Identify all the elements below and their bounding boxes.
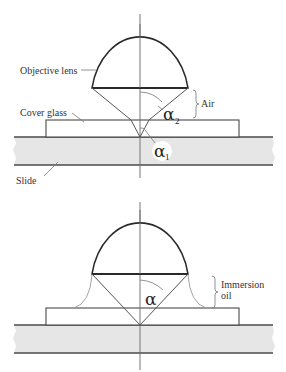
- label-slide: Slide: [16, 175, 37, 186]
- label-alpha-2-subscript: 2: [175, 116, 180, 126]
- label-alpha-1-subscript: 1: [165, 152, 170, 162]
- immersion-oil-right: [188, 275, 206, 308]
- label-objective-lens: Objective lens: [20, 65, 78, 76]
- microscope-objective-diagram: Objective lens Cover glass Slide Air α 2…: [0, 0, 286, 372]
- angle-arc-alpha2: [140, 92, 162, 102]
- label-cover-glass: Cover glass: [20, 107, 67, 118]
- label-air: Air: [201, 98, 215, 109]
- label-immersion: Immersion: [221, 279, 264, 290]
- top-panel-dry-objective: Objective lens Cover glass Slide Air α 2…: [13, 14, 275, 186]
- label-alpha: α: [145, 289, 157, 309]
- immersion-oil-left: [74, 275, 92, 308]
- slide-bottom: [13, 325, 275, 353]
- label-alpha-2: α: [163, 104, 175, 124]
- air-brace: [193, 90, 199, 118]
- bottom-panel-oil-immersion: Immersion oil α: [13, 202, 275, 370]
- slide-top: [13, 137, 275, 165]
- immersion-oil-brace: [212, 276, 218, 308]
- label-oil: oil: [221, 290, 232, 301]
